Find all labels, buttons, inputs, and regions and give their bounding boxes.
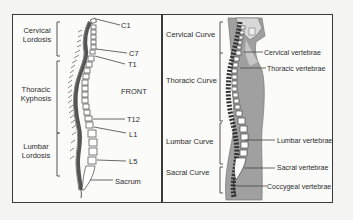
label-line: Kyphosis — [18, 94, 54, 103]
label-thoracic-vertebrae: Thoracic vertebrae — [267, 64, 325, 73]
label-thoracic-curve: Thoracic Curve — [166, 76, 217, 85]
label-cervical-curve: Cervical Curve — [166, 30, 215, 39]
bracket-cervical-curve — [220, 22, 223, 53]
bracket-sacral-curve — [220, 167, 223, 193]
label-cervical-vertebrae: Cervical vertebrae — [264, 48, 321, 57]
label-thoracic-kyphosis: Thoracic Kyphosis — [18, 85, 54, 103]
label-lumbar-vertebrae: Lumbar vertebrae — [277, 136, 332, 145]
bracket-thoracic — [57, 61, 60, 133]
left-spine — [68, 18, 97, 198]
label-line: Cervical — [20, 26, 54, 35]
bracket-lumbar — [57, 133, 60, 176]
label-coccygeal-vertebrae: Coccygeal vertebrae — [267, 182, 331, 191]
label-cervical-lordosis: Cervical Lordosis — [20, 26, 54, 44]
bracket-cervical — [57, 22, 60, 56]
label-c7: C7 — [129, 49, 139, 58]
label-line: Lumbar — [18, 142, 54, 151]
label-line: Lordosis — [18, 151, 54, 160]
label-c1: C1 — [121, 21, 131, 30]
label-line: Lordosis — [20, 35, 54, 44]
left-curve-brackets — [57, 22, 60, 176]
label-l5: L5 — [129, 157, 137, 166]
label-lumbar-lordosis: Lumbar Lordosis — [18, 142, 54, 160]
label-sacral-vertebrae: Sacral vertebrae — [277, 163, 328, 172]
right-curve-brackets — [220, 22, 223, 193]
bracket-lumbar-curve — [220, 123, 223, 164]
label-front: FRONT — [121, 87, 147, 96]
label-t12: T12 — [127, 115, 140, 124]
label-sacral-curve: Sacral Curve — [166, 168, 209, 177]
label-lumbar-curve: Lumbar Curve — [166, 137, 214, 146]
label-line: Thoracic — [18, 85, 54, 94]
label-l1: L1 — [129, 130, 137, 139]
label-sacrum: Sacrum — [115, 177, 141, 186]
label-t1: T1 — [128, 60, 137, 69]
